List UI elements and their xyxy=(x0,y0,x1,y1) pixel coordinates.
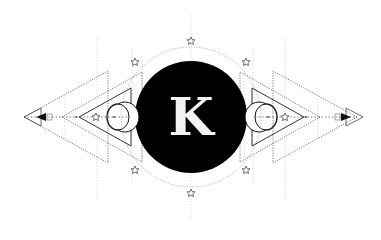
monogram-letter: K xyxy=(151,84,231,150)
